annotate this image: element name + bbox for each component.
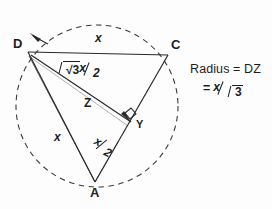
edge-label-dc: x — [95, 32, 102, 44]
arrow-tail-to-d — [33, 36, 48, 44]
annotation-block: Radius = DZ = x3 — [190, 62, 261, 96]
annotation-line-value: = x3 — [190, 81, 261, 96]
point-label-z: Z — [84, 97, 91, 109]
diagram-page: D C A Y Z x x √3x2 x2 Radius = DZ = x3 — [0, 0, 272, 209]
vertex-label-a: A — [90, 186, 100, 199]
circumscribed-circle — [16, 25, 178, 187]
point-label-y: Y — [136, 119, 143, 130]
annotation-line-radius: Radius = DZ — [190, 62, 261, 76]
segment-label-dy: √3x2 — [58, 60, 100, 77]
radical-sign: √3 — [58, 60, 79, 77]
vertex-label-c: C — [171, 38, 181, 51]
equals-sign: = — [203, 81, 210, 95]
vertex-label-d: D — [13, 37, 23, 50]
segment-dc — [28, 52, 168, 55]
denominator-2: 2 — [93, 67, 100, 79]
geometry-figure — [0, 0, 272, 209]
denominator-sqrt3: 3 — [227, 84, 242, 99]
edge-label-da: x — [54, 131, 61, 143]
radicand-3: √3 — [66, 63, 79, 77]
radicand-3: 3 — [235, 85, 242, 99]
